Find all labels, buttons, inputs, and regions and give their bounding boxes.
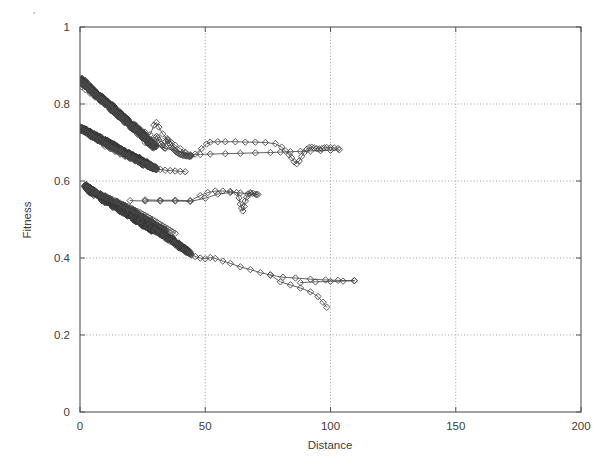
y-tick-label: 0.6: [54, 175, 70, 187]
x-axis-label: Distance: [308, 439, 353, 451]
scan-artifact-speck: [33, 12, 35, 14]
x-tick-label: 50: [199, 420, 212, 432]
x-tick-label: 200: [571, 420, 590, 432]
x-tick-label: 0: [77, 420, 83, 432]
x-tick-label: 150: [446, 420, 465, 432]
y-tick-label: 0.2: [54, 329, 70, 341]
figure-container: 05010015020000.20.40.60.81 Distance Fitn…: [0, 0, 611, 464]
y-axis-label: Fitness: [21, 201, 33, 238]
y-tick-label: 0.8: [54, 98, 70, 110]
y-tick-label: 1: [64, 21, 70, 33]
y-tick-label: 0: [64, 406, 70, 418]
figure-background: [0, 0, 611, 464]
scatter-plot: 05010015020000.20.40.60.81 Distance Fitn…: [0, 0, 611, 464]
x-tick-label: 100: [321, 420, 340, 432]
y-tick-label: 0.4: [54, 252, 71, 264]
